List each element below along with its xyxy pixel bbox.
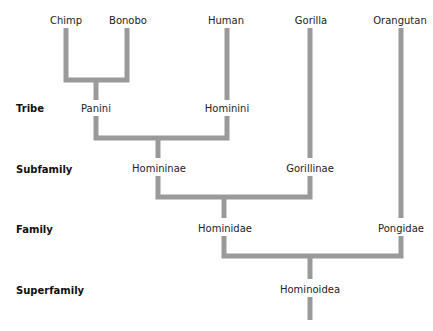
taxon-homininae: Homininae xyxy=(132,163,186,174)
taxon-pongidae: Pongidae xyxy=(378,223,424,234)
branch-panini-hominini xyxy=(96,116,227,138)
taxon-hominidae: Hominidae xyxy=(198,223,252,234)
taxon-hominini: Hominini xyxy=(205,103,249,114)
rank-superfamily: Superfamily xyxy=(16,285,84,296)
species-gorilla: Gorilla xyxy=(295,15,327,26)
species-chimp: Chimp xyxy=(50,15,82,26)
taxon-hominoidea: Hominoidea xyxy=(280,284,340,295)
species-human: Human xyxy=(208,15,244,26)
branch-hominidae-pongidae xyxy=(224,236,401,256)
taxon-gorillinae: Gorillinae xyxy=(286,163,334,174)
rank-tribe: Tribe xyxy=(16,103,44,114)
rank-family: Family xyxy=(16,224,53,235)
species-orangutan: Orangutan xyxy=(373,15,427,26)
taxon-panini: Panini xyxy=(81,103,111,114)
species-bonobo: Bonobo xyxy=(109,15,147,26)
rank-subfamily: Subfamily xyxy=(16,164,72,175)
branch-homininae-gorillinae xyxy=(158,176,310,197)
branch-chimp-bonobo xyxy=(66,28,127,80)
